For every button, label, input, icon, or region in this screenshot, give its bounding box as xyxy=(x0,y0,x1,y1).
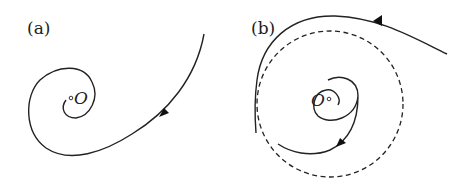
panel-a-label: (a) xyxy=(27,18,50,38)
origin-label-b: O xyxy=(311,90,325,110)
limit-cycle-dashed xyxy=(257,31,403,177)
panel-b-label: (b) xyxy=(251,18,275,38)
origin-point xyxy=(327,97,331,101)
phase-portrait-figure: (a) O (b) O xyxy=(0,0,471,189)
spiral-trajectory-a xyxy=(29,34,204,155)
outer-trajectory xyxy=(255,16,447,133)
panel-b: (b) O xyxy=(251,15,447,177)
origin-point xyxy=(69,96,73,100)
panel-a: (a) O xyxy=(27,18,204,155)
arrow-icon xyxy=(373,15,382,26)
origin-label-a: O xyxy=(74,88,88,108)
inner-trajectory xyxy=(278,77,358,153)
